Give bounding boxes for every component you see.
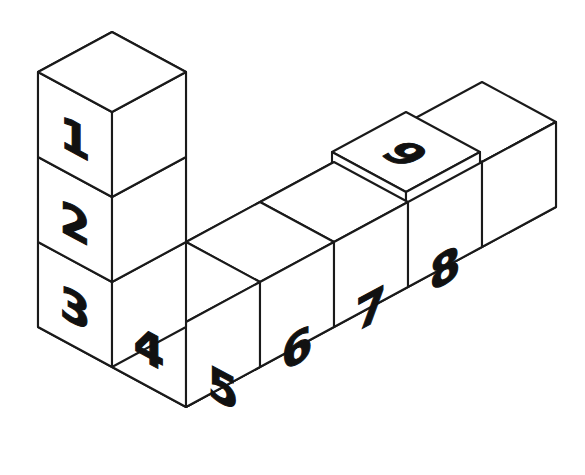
isometric-cube-diagram: 1 2 3 4 5 6 7 8 9 [0,0,585,475]
figure-canvas: 1 2 3 4 5 6 7 8 9 [0,0,585,475]
